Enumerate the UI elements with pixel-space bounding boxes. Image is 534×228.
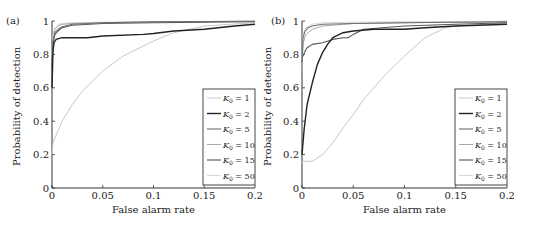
- y-tick-label: 0.8: [33, 49, 49, 60]
- legend-entry: K0 = 50: [474, 172, 507, 182]
- y-axis-label: Probability of detection: [11, 46, 22, 166]
- y-tick-label: 0.4: [283, 116, 299, 127]
- figure: 00.050.10.150.200.20.40.60.81False alarm…: [0, 0, 534, 228]
- x-tick-label: 0: [299, 190, 305, 201]
- y-tick-label: 1: [293, 16, 299, 27]
- x-tick-label: 0.2: [499, 190, 515, 201]
- y-tick-label: 0.2: [33, 149, 49, 160]
- legend-entry: K0 = 15: [222, 156, 255, 166]
- y-tick-label: 0.6: [33, 82, 49, 93]
- legend: K0 = 1K0 = 2K0 = 5K0 = 10K0 = 15K0 = 50: [455, 89, 507, 185]
- y-tick-label: 0.4: [33, 116, 49, 127]
- legend-entry: K0 = 50: [222, 172, 255, 182]
- y-axis-label: Probability of detection: [262, 46, 273, 166]
- legend-entry: K0 = 1: [222, 94, 250, 104]
- legend-entry: K0 = 5: [474, 125, 502, 135]
- panel-b: 00.050.10.150.200.20.40.60.81False alarm…: [262, 15, 515, 215]
- legend-entry: K0 = 2: [474, 110, 502, 120]
- x-tick-label: 0.2: [247, 190, 263, 201]
- x-axis-label: False alarm rate: [112, 204, 195, 215]
- series-line-15: [302, 23, 507, 56]
- legend-entry: K0 = 10: [222, 141, 255, 151]
- legend-entry: K0 = 10: [474, 141, 507, 151]
- panel-label: (a): [6, 15, 20, 26]
- x-tick-label: 0.05: [342, 190, 364, 201]
- y-tick-label: 0.8: [283, 49, 299, 60]
- legend-entry: K0 = 15: [474, 156, 507, 166]
- legend-entry: K0 = 1: [474, 94, 502, 104]
- series-line-2: [52, 24, 255, 88]
- y-tick-label: 0.6: [283, 82, 299, 93]
- x-tick-label: 0.15: [193, 190, 215, 201]
- x-axis-label: False alarm rate: [363, 204, 446, 215]
- y-tick-label: 0: [293, 183, 299, 194]
- legend-entry: K0 = 2: [222, 110, 250, 120]
- x-tick-label: 0.1: [146, 190, 162, 201]
- x-tick-label: 0.1: [397, 190, 413, 201]
- x-tick-label: 0.05: [92, 190, 114, 201]
- y-tick-label: 0: [43, 183, 49, 194]
- y-tick-label: 0.2: [283, 149, 299, 160]
- panel-label: (b): [271, 15, 285, 26]
- series-line-15: [52, 22, 255, 68]
- legend-entry: K0 = 5: [222, 125, 250, 135]
- legend: K0 = 1K0 = 2K0 = 5K0 = 10K0 = 15K0 = 50: [203, 89, 255, 185]
- x-tick-label: 0: [49, 190, 55, 201]
- panel-a: 00.050.10.150.200.20.40.60.81False alarm…: [6, 15, 263, 215]
- series-line-5: [52, 21, 255, 71]
- y-tick-label: 1: [43, 16, 49, 27]
- x-tick-label: 0.15: [445, 190, 467, 201]
